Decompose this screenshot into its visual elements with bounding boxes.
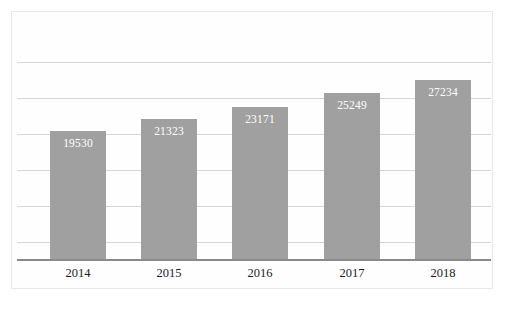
- bar-value-label: 23171: [232, 114, 288, 126]
- category-axis-line: [17, 259, 491, 261]
- x-tick-label-2014: 2014: [50, 264, 106, 282]
- bar-value-label: 27234: [415, 87, 471, 99]
- bar-2018[interactable]: 27234: [415, 80, 471, 259]
- bar-2014[interactable]: 19530: [50, 131, 106, 259]
- chart-figure: 19530 21323 23171 25249 27234 2014 2: [0, 0, 520, 309]
- x-tick-label-2016: 2016: [232, 264, 288, 282]
- bars-layer: 19530 21323 23171 25249 27234: [17, 22, 491, 259]
- bar-2015[interactable]: 21323: [141, 119, 197, 259]
- x-tick-label-2018: 2018: [415, 264, 471, 282]
- x-tick-label-2015: 2015: [141, 264, 197, 282]
- bar-2016[interactable]: 23171: [232, 107, 288, 259]
- x-tick-label-2017: 2017: [324, 264, 380, 282]
- x-axis-labels: 2014 2015 2016 2017 2018: [17, 264, 491, 286]
- bar-value-label: 21323: [141, 126, 197, 138]
- bar-value-label: 19530: [50, 138, 106, 150]
- bar-value-label: 25249: [324, 100, 380, 112]
- bar-2017[interactable]: 25249: [324, 93, 380, 259]
